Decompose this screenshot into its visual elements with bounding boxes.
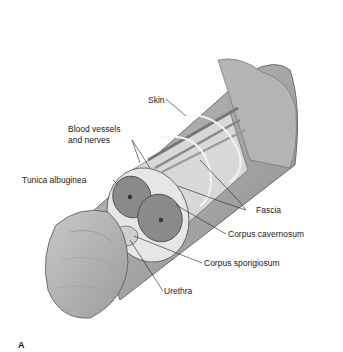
label-tunica-albuginea: Tunica albuginea bbox=[22, 175, 86, 185]
label-urethra: Urethra bbox=[164, 286, 192, 296]
panel-label: A bbox=[18, 340, 25, 350]
label-skin: Skin bbox=[148, 95, 165, 105]
label-blood-vessels-line2: and nerves bbox=[68, 135, 110, 145]
label-corpus-cavernosum: Corpus cavernosum bbox=[228, 229, 304, 239]
label-fascia: Fascia bbox=[256, 205, 281, 215]
label-blood-vessels-line1: Blood vessels bbox=[68, 124, 120, 134]
label-corpus-spongiosum: Corpus spongiosum bbox=[204, 258, 280, 268]
anatomy-diagram: Skin Blood vessels and nerves Tunica alb… bbox=[0, 0, 343, 352]
